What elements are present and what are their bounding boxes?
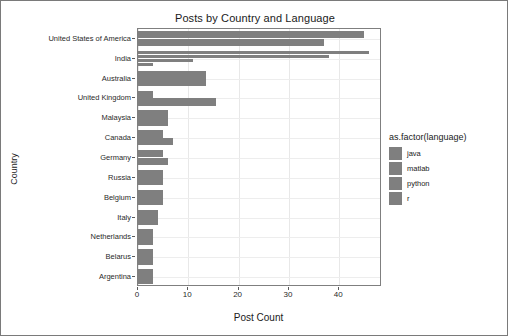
y-tick-mark bbox=[132, 38, 135, 39]
chart-legend: as.factor(language) javamatlabpythonr bbox=[389, 132, 501, 206]
legend-label: java bbox=[407, 149, 421, 158]
x-tick-mark bbox=[338, 287, 339, 290]
legend-label: python bbox=[407, 179, 430, 188]
x-tick-label: 0 bbox=[135, 290, 139, 299]
y-tick-mark bbox=[132, 97, 135, 98]
bar bbox=[138, 190, 163, 205]
bar bbox=[138, 39, 324, 46]
y-gridline bbox=[138, 218, 380, 219]
x-axis-title: Post Count bbox=[136, 312, 381, 323]
y-tick-label: Belgium bbox=[104, 192, 131, 201]
bar bbox=[138, 130, 163, 137]
y-gridline bbox=[138, 118, 380, 119]
y-tick-mark bbox=[132, 117, 135, 118]
legend-item[interactable]: python bbox=[389, 176, 501, 191]
x-tick-label: 10 bbox=[183, 290, 192, 299]
x-tick-mark bbox=[137, 287, 138, 290]
y-gridline bbox=[138, 237, 380, 238]
x-tick-mark bbox=[238, 287, 239, 290]
y-gridline bbox=[138, 257, 380, 258]
y-gridline bbox=[138, 158, 380, 159]
y-tick-label: India bbox=[115, 53, 131, 62]
x-gridline bbox=[339, 29, 340, 285]
y-axis-title-text: Country bbox=[9, 153, 19, 185]
y-tick-mark bbox=[132, 157, 135, 158]
y-tick-mark bbox=[132, 78, 135, 79]
y-gridline bbox=[138, 138, 380, 139]
x-gridline bbox=[239, 29, 240, 285]
legend-swatch-icon bbox=[389, 192, 402, 205]
bar bbox=[138, 249, 153, 264]
x-tick-label: 40 bbox=[334, 290, 343, 299]
y-tick-label: Canada bbox=[105, 133, 131, 142]
bar bbox=[138, 170, 163, 185]
y-axis-title: Country bbox=[7, 1, 21, 336]
legend-entries: javamatlabpythonr bbox=[389, 146, 501, 206]
x-axis-tick-labels: 010203040 bbox=[137, 290, 381, 304]
y-tick-label: United Kingdom bbox=[78, 93, 131, 102]
y-tick-mark bbox=[132, 236, 135, 237]
y-tick-mark bbox=[132, 197, 135, 198]
bar bbox=[138, 98, 216, 105]
y-tick-label: Malaysia bbox=[101, 113, 131, 122]
bar bbox=[138, 71, 206, 86]
legend-swatch-icon bbox=[389, 147, 402, 160]
chart-figure: Posts by Country and Language Country Un… bbox=[0, 0, 508, 336]
bar bbox=[138, 63, 153, 66]
y-tick-label: Russia bbox=[108, 172, 131, 181]
bar bbox=[138, 51, 369, 54]
y-gridline bbox=[138, 198, 380, 199]
legend-item[interactable]: matlab bbox=[389, 161, 501, 176]
y-tick-label: Belarus bbox=[106, 252, 131, 261]
y-tick-mark bbox=[132, 217, 135, 218]
bar bbox=[138, 138, 173, 145]
y-tick-mark bbox=[132, 137, 135, 138]
y-tick-label: Italy bbox=[117, 212, 131, 221]
x-tick-mark bbox=[187, 287, 188, 290]
y-tick-mark bbox=[132, 256, 135, 257]
y-tick-mark bbox=[132, 58, 135, 59]
y-tick-label: Australia bbox=[102, 73, 131, 82]
legend-label: matlab bbox=[407, 164, 430, 173]
legend-item[interactable]: r bbox=[389, 191, 501, 206]
y-tick-label: Argentina bbox=[99, 272, 131, 281]
bar bbox=[138, 55, 329, 58]
bar bbox=[138, 59, 193, 62]
legend-swatch-icon bbox=[389, 162, 402, 175]
y-tick-mark bbox=[132, 177, 135, 178]
x-gridline bbox=[188, 29, 189, 285]
y-gridline bbox=[138, 178, 380, 179]
legend-item[interactable]: java bbox=[389, 146, 501, 161]
plot-panel bbox=[137, 28, 381, 286]
bar bbox=[138, 110, 168, 125]
y-tick-label: Germany bbox=[100, 153, 131, 162]
chart-title: Posts by Country and Language bbox=[1, 12, 508, 24]
x-tick-label: 30 bbox=[283, 290, 292, 299]
bar bbox=[138, 91, 153, 98]
bar bbox=[138, 31, 364, 38]
legend-label: r bbox=[407, 194, 410, 203]
y-tick-mark bbox=[132, 276, 135, 277]
bar bbox=[138, 158, 168, 165]
bar bbox=[138, 269, 153, 284]
y-gridline bbox=[138, 277, 380, 278]
y-axis-tick-labels: United States of AmericaIndiaAustraliaUn… bbox=[27, 28, 131, 286]
x-gridline bbox=[289, 29, 290, 285]
x-tick-mark bbox=[288, 287, 289, 290]
bar bbox=[138, 229, 153, 244]
legend-swatch-icon bbox=[389, 177, 402, 190]
y-tick-label: United States of America bbox=[48, 33, 131, 42]
x-tick-label: 20 bbox=[233, 290, 242, 299]
y-tick-label: Netherlands bbox=[91, 232, 131, 241]
bar bbox=[138, 210, 158, 225]
legend-title: as.factor(language) bbox=[389, 132, 501, 142]
bar bbox=[138, 150, 163, 157]
